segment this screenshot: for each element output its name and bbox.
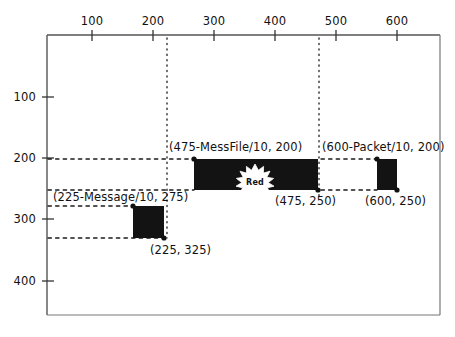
packet-rectangle xyxy=(377,159,397,190)
y-axis-ticks xyxy=(42,97,54,281)
x-tick-label-600: 600 xyxy=(386,14,409,28)
corner-dot-message-topleft xyxy=(130,203,135,208)
x-tick-label-300: 300 xyxy=(203,14,226,28)
guide-lines xyxy=(48,38,379,238)
coordinate-diagram-figure: Red 100 200 300 400 500 600 100 200 300 … xyxy=(0,0,455,337)
label-messfile-bottom: (475, 250) xyxy=(275,194,336,208)
corner-dot-messfile-bottomright xyxy=(315,187,320,192)
label-packet-bottom: (600, 250) xyxy=(365,194,426,208)
burst-label: Red xyxy=(246,178,264,187)
corner-dot-message-bottomright xyxy=(161,235,166,240)
y-tick-label-400: 400 xyxy=(8,274,36,288)
label-packet-corner: (600-Packet/10, 200) xyxy=(322,140,444,154)
plot-canvas: Red xyxy=(0,0,455,337)
x-tick-label-500: 500 xyxy=(325,14,348,28)
x-tick-label-100: 100 xyxy=(81,14,104,28)
y-tick-label-100: 100 xyxy=(8,90,36,104)
corner-dot-packet-topleft xyxy=(374,156,379,161)
y-tick-label-200: 200 xyxy=(8,151,36,165)
x-tick-label-400: 400 xyxy=(264,14,287,28)
label-message-bottom: (225, 325) xyxy=(150,243,211,257)
label-message-corner: (225-Message/10, 275) xyxy=(53,190,188,204)
y-tick-label-300: 300 xyxy=(8,212,36,226)
label-messfile-corner: (475-MessFile/10, 200) xyxy=(169,140,302,154)
x-tick-label-200: 200 xyxy=(142,14,165,28)
corner-dot-messfile-topleft xyxy=(191,156,196,161)
corner-dot-packet-bottomright xyxy=(394,187,399,192)
message-rectangle xyxy=(133,206,164,238)
